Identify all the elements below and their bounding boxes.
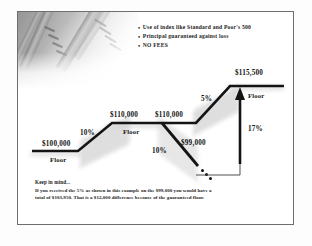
footnote-block: Keep in mind... If you received the 5% a…: [35, 179, 270, 202]
footnote-line-2: total of $103,950. That is a $12,000 dif…: [35, 194, 270, 202]
label-final-value: $115,500: [235, 69, 263, 77]
label-start-floor: Floor: [50, 156, 66, 163]
label-peak1-value: $110,000: [110, 111, 138, 119]
slide-canvas: • Use of index like Standard and Poor's …: [0, 0, 312, 246]
label-decline-value: $99,000: [181, 139, 206, 147]
decline-dot: [205, 173, 208, 176]
label-arrow-percent: 17%: [248, 125, 263, 133]
label-start-value: $100,000: [42, 140, 71, 148]
footnote-heading: Keep in mind...: [35, 179, 270, 185]
label-peak1-floor: Floor: [123, 128, 139, 135]
label-decline-percent: 10%: [152, 147, 167, 155]
label-gain1-percent: 10%: [80, 129, 95, 137]
label-peak2-value: $110,000: [155, 111, 183, 119]
label-final-floor: Floor: [248, 92, 264, 99]
decline-dot: [201, 169, 204, 172]
footnote-line-1: If you received the 5% as shown in this …: [35, 187, 270, 195]
gain-arrow-head-icon: [235, 87, 245, 100]
measurement-bracket: [196, 163, 240, 175]
label-gain2-percent: 5%: [201, 95, 212, 103]
slide-frame: • Use of index like Standard and Poor's …: [17, 11, 294, 225]
